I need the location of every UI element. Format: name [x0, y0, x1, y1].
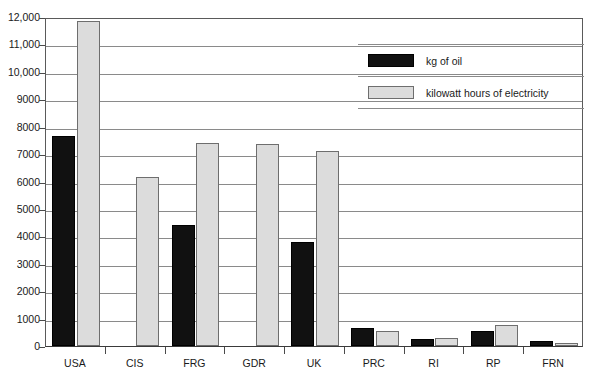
x-axis-label-rp: RP	[486, 357, 501, 369]
bar-oil-frn	[530, 341, 553, 346]
bar-oil-ri	[411, 339, 434, 346]
bar-oil-uk	[291, 242, 314, 346]
gridline	[46, 211, 582, 212]
y-axis-tick-label: 9000	[0, 94, 40, 105]
x-axis-tick	[224, 347, 225, 354]
gridline	[46, 184, 582, 185]
bar-chart: 010002000300040005000600070008000900010,…	[0, 0, 594, 385]
bar-electricity-gdr	[256, 144, 279, 346]
gridline	[46, 129, 582, 130]
y-axis-tick-label: 12,000	[0, 12, 40, 23]
y-axis-tick-label: 4000	[0, 231, 40, 242]
gridline	[46, 156, 582, 157]
legend-item-oil: kg of oil	[358, 45, 584, 76]
legend: kg of oil kilowatt hours of electricity	[358, 44, 584, 109]
legend-swatch-electricity-icon	[368, 86, 414, 99]
bar-electricity-usa	[77, 21, 100, 346]
x-axis-tick	[165, 347, 166, 354]
bar-oil-rp	[471, 331, 494, 346]
x-axis-tick	[105, 347, 106, 354]
bar-electricity-ri	[435, 338, 458, 346]
x-axis-tick	[404, 347, 405, 354]
bar-electricity-rp	[495, 325, 518, 346]
legend-item-electricity: kilowatt hours of electricity	[358, 77, 584, 108]
legend-label-oil: kg of oil	[426, 55, 462, 67]
x-axis-tick	[344, 347, 345, 354]
y-axis-tick-label: 7000	[0, 149, 40, 160]
bar-electricity-frg	[196, 143, 219, 346]
y-axis-tick-label: 5000	[0, 204, 40, 215]
y-axis-tick-label: 11,000	[0, 39, 40, 50]
x-axis-tick	[284, 347, 285, 354]
x-axis-label-frn: FRN	[542, 357, 564, 369]
legend-swatch-oil-icon	[368, 54, 414, 67]
gridline	[46, 238, 582, 239]
y-axis-tick-label: 10,000	[0, 67, 40, 78]
y-axis-tick-label: 3000	[0, 259, 40, 270]
bar-electricity-cis	[136, 177, 159, 346]
y-axis-tick-label: 2000	[0, 286, 40, 297]
x-axis-label-prc: PRC	[363, 357, 385, 369]
x-axis-label-usa: USA	[64, 357, 86, 369]
legend-label-electricity: kilowatt hours of electricity	[426, 87, 549, 99]
x-axis-tick	[523, 347, 524, 354]
bar-electricity-frn	[555, 343, 578, 346]
x-axis-label-frg: FRG	[183, 357, 205, 369]
x-axis-tick	[463, 347, 464, 354]
bar-electricity-prc	[376, 331, 399, 346]
x-axis-label-gdr: GDR	[243, 357, 266, 369]
bar-oil-usa	[52, 136, 75, 346]
legend-rule-bottom	[358, 108, 584, 109]
x-axis-label-ri: RI	[428, 357, 439, 369]
x-axis-label-uk: UK	[307, 357, 322, 369]
bar-oil-frg	[172, 225, 195, 346]
y-axis-tick	[39, 347, 45, 348]
y-axis-tick-label: 1000	[0, 314, 40, 325]
y-axis-tick-label: 8000	[0, 122, 40, 133]
x-axis-label-cis: CIS	[126, 357, 144, 369]
y-axis-tick-label: 0	[0, 341, 40, 352]
bar-oil-prc	[351, 328, 374, 346]
y-axis-tick-label: 6000	[0, 177, 40, 188]
bar-electricity-uk	[316, 151, 339, 346]
